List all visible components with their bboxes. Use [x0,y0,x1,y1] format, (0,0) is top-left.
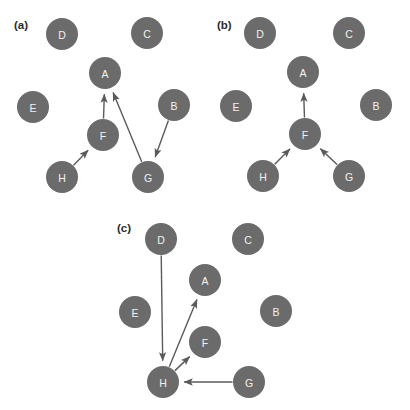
node-A[interactable]: A [189,264,221,296]
node-C[interactable]: C [333,17,365,49]
edge-F-to-A [104,94,105,118]
node-B[interactable]: B [260,295,292,327]
node-H[interactable]: H [147,366,179,398]
edge-B-to-G [155,121,168,158]
figure-container: (a)DCAEBFHG(b)DCAEBFHG(c)DCAEBFHG [0,0,410,410]
node-D[interactable]: D [145,223,177,255]
node-label-E: E [131,307,138,319]
node-C[interactable]: C [232,223,264,255]
node-label-A: A [299,67,306,79]
node-D[interactable]: D [46,18,78,50]
node-label-D: D [256,28,264,40]
node-label-C: C [345,28,353,40]
node-label-G: G [245,377,253,389]
edge-D-to-H [161,256,162,361]
node-label-A: A [101,68,108,80]
node-H[interactable]: H [46,161,78,193]
edge-H-to-F [175,357,190,371]
node-E[interactable]: E [17,91,49,123]
node-B[interactable]: B [360,89,392,121]
node-label-E: E [232,101,239,113]
node-label-B: B [372,100,379,112]
edge-layer [74,93,169,166]
node-label-C: C [143,28,151,40]
edge-G-to-F [320,149,337,165]
node-label-A: A [201,275,208,287]
node-F[interactable]: F [87,119,119,151]
node-E[interactable]: E [220,90,252,122]
panel-label-b: (b) [217,19,232,31]
panel-b: (b)DCAEBFHG [217,17,392,192]
edge-G-to-A [113,93,142,162]
node-label-F: F [202,337,208,349]
node-layer: DCAEBFHG [119,223,292,398]
node-D[interactable]: D [244,17,276,49]
node-label-F: F [100,130,106,142]
panel-label-a: (a) [14,19,28,31]
node-label-H: H [58,172,66,184]
node-G[interactable]: G [132,161,164,193]
node-H[interactable]: H [247,160,279,192]
node-layer: DCAEBFHG [220,17,392,192]
node-B[interactable]: B [158,89,190,121]
node-label-E: E [29,102,36,114]
node-label-H: H [259,171,267,183]
node-C[interactable]: C [131,17,163,49]
node-label-H: H [159,377,167,389]
edge-H-to-F [74,150,89,165]
node-label-G: G [144,172,152,184]
node-G[interactable]: G [333,160,365,192]
node-label-B: B [170,100,177,112]
node-label-C: C [244,234,252,246]
panel-label-c: (c) [117,222,131,234]
node-label-G: G [345,171,353,183]
node-label-D: D [157,234,165,246]
node-F[interactable]: F [289,118,321,150]
directed-graph-figure: (a)DCAEBFHG(b)DCAEBFHG(c)DCAEBFHG [0,0,410,410]
node-A[interactable]: A [89,57,121,89]
node-label-F: F [302,129,308,141]
edge-H-to-F [275,149,290,164]
panel-a: (a)DCAEBFHG [14,17,190,193]
edge-F-to-A [304,93,305,117]
node-G[interactable]: G [233,366,265,398]
node-A[interactable]: A [287,56,319,88]
node-E[interactable]: E [119,296,151,328]
node-F[interactable]: F [189,326,221,358]
node-label-B: B [272,306,279,318]
node-label-D: D [58,29,66,41]
panel-c: (c)DCAEBFHG [117,222,292,398]
